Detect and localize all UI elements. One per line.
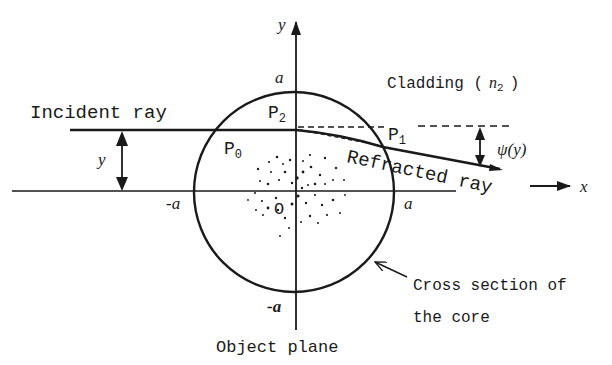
incident-ray-label: Incident ray — [30, 102, 167, 124]
refraction-diagram: x y a -a -a a O y ψ(y) P0 P2 P1 Incident… — [0, 0, 612, 365]
point-p2-label: P2 — [268, 103, 286, 126]
offset-arrow-down — [116, 177, 128, 191]
core-caption-pointer — [375, 262, 407, 277]
core-caption-line1: Cross section of — [413, 277, 567, 295]
radius-label-top: a — [275, 68, 284, 87]
radius-label-bottom: -a — [267, 297, 282, 316]
ray-path — [70, 130, 500, 169]
point-p0-label: P0 — [224, 139, 242, 162]
point-p1-label: P1 — [388, 125, 406, 148]
refracted-ray-arrowhead — [489, 164, 503, 171]
deflection-label: ψ(y) — [497, 140, 527, 159]
offset-arrow-up — [116, 131, 128, 146]
origin-label: O — [274, 200, 284, 219]
core-cross-section-circle — [194, 92, 394, 292]
core-caption-line2: the core — [413, 309, 490, 327]
offset-label: y — [96, 150, 106, 169]
object-plane-caption: Object plane — [216, 338, 338, 357]
deflection-arrow-up — [475, 127, 485, 140]
x-axis-label: x — [579, 177, 588, 196]
radius-label-right: a — [404, 194, 413, 213]
cladding-label: Cladding (n2) — [387, 74, 519, 94]
radius-label-left: -a — [166, 194, 180, 213]
diagram-canvas: x y a -a -a a O y ψ(y) P0 P2 P1 Incident… — [0, 0, 612, 365]
y-axis-label: y — [276, 15, 286, 34]
